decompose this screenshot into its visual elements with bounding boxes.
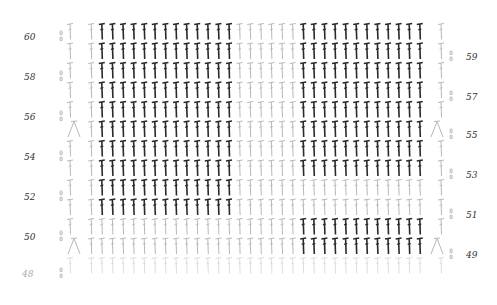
stitch-icon [99,160,105,176]
stitch-icon [152,258,158,274]
stitch-icon [311,160,317,176]
stitch-icon [406,63,412,79]
stitch-icon [152,238,158,254]
stitch-icon [226,141,232,157]
stitch-icon [67,258,73,274]
row-number-label: 51 [466,210,477,220]
stitch-icon [374,199,380,215]
stitch-icon [88,180,94,196]
increase-icon [68,121,80,137]
stitch-icon [131,43,137,59]
stitch-icon [226,199,232,215]
stitch-icon [374,82,380,98]
stitch-icon [152,219,158,235]
stitch-icon [300,160,306,176]
stitch-icon [205,43,211,59]
stitch-icon [109,219,115,235]
stitch-icon [141,43,147,59]
stitch-icon [205,160,211,176]
stitch-icon [417,24,423,40]
stitch-icon [173,160,179,176]
stitch-icon [364,258,370,274]
stitch-icon [321,82,327,98]
stitch-icon [162,102,168,118]
stitch-icon [67,141,73,157]
stitch-icon [364,219,370,235]
chain-icon: 00 [448,128,454,140]
stitch-icon [226,102,232,118]
stitch-icon [353,238,359,254]
stitch-icon [226,180,232,196]
stitch-icon [353,258,359,274]
row-number-label: 52 [24,192,35,202]
stitch-icon [67,43,73,59]
stitch-icon [374,102,380,118]
stitch-icon [417,102,423,118]
stitch-icon [109,180,115,196]
stitch-icon [120,258,126,274]
stitch-icon [131,238,137,254]
stitch-icon [438,199,444,215]
stitch-icon [385,199,391,215]
stitch-icon [258,180,264,196]
stitch-icon [396,160,402,176]
stitch-icon [184,219,190,235]
stitch-icon [406,199,412,215]
chain-icon: 00 [448,248,454,260]
stitch-icon [162,238,168,254]
stitch-icon [247,160,253,176]
stitch-icon [194,43,200,59]
stitch-icon [141,24,147,40]
stitch-icon [396,24,402,40]
stitch-icon [279,121,285,137]
stitch-icon [184,63,190,79]
stitch-icon [385,24,391,40]
chain-icon: 00 [58,150,64,162]
stitch-icon [406,160,412,176]
stitch-icon [406,121,412,137]
stitch-icon [152,160,158,176]
stitch-icon [162,43,168,59]
stitch-icon [290,43,296,59]
stitch-icon [268,238,274,254]
stitch-icon [120,63,126,79]
stitch-icon [184,43,190,59]
stitch-icon [162,180,168,196]
stitch-icon [417,141,423,157]
stitch-icon [67,199,73,215]
stitch-icon [438,102,444,118]
stitch-icon [226,43,232,59]
stitch-icon [237,43,243,59]
stitch-icon [385,238,391,254]
stitch-icon [194,219,200,235]
stitch-icon [417,63,423,79]
stitch-icon [141,121,147,137]
increase-icon [431,238,443,254]
stitch-icon [290,180,296,196]
stitch-icon [406,238,412,254]
stitch-icon [258,258,264,274]
stitch-icon [343,258,349,274]
stitch-icon [417,238,423,254]
stitch-icon [364,141,370,157]
stitch-icon [321,219,327,235]
stitch-icon [332,43,338,59]
stitch-icon [311,121,317,137]
stitch-icon [290,24,296,40]
stitch-icon [396,258,402,274]
stitch-icon [67,82,73,98]
stitch-icon [99,258,105,274]
stitch-icon [162,258,168,274]
stitch-icon [215,82,221,98]
stitch-icon [247,141,253,157]
stitch-icon [109,121,115,137]
stitch-icon [364,121,370,137]
stitch-icon [162,121,168,137]
stitch-icon [184,102,190,118]
stitch-icon [237,141,243,157]
stitch-icon [67,160,73,176]
stitch-icon [152,199,158,215]
stitch-icon [120,219,126,235]
stitch-icon [247,238,253,254]
stitch-icon [152,121,158,137]
